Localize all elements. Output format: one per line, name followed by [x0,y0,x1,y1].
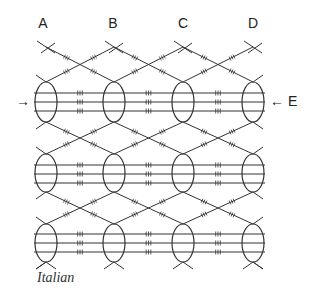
column-label-b: B [108,15,117,31]
caption: Italian [37,270,74,286]
thread-line [173,262,183,269]
pair-ellipse [172,154,194,192]
thread-line [114,262,124,269]
lace-pattern-diagram [0,0,310,290]
thread-line [36,217,46,224]
pair-ellipse [35,154,57,192]
thread-line [36,192,46,199]
column-label-d: D [248,15,258,31]
thread-line [253,147,263,154]
thread-line [46,262,56,269]
thread-line [36,262,46,269]
thread-line [105,41,123,53]
column-label-a: A [38,15,47,31]
thread-line [253,75,263,82]
thread-line [253,122,263,129]
thread-line [253,192,263,199]
column-label-c: C [178,15,188,31]
right-arrow-label-e: ← E [270,93,297,109]
thread-line [253,262,263,269]
left-arrow-icon: → [16,93,30,109]
thread-line [36,75,46,82]
thread-line [253,217,263,224]
thread-line [36,147,46,154]
thread-line [104,262,114,269]
pair-ellipse [242,154,264,192]
thread-line [183,262,193,269]
thread-line [244,41,262,53]
thread-line [36,122,46,129]
thread-line [243,262,253,269]
thread-line [37,41,55,53]
pair-ellipse [103,154,125,192]
thread-line [174,41,192,53]
